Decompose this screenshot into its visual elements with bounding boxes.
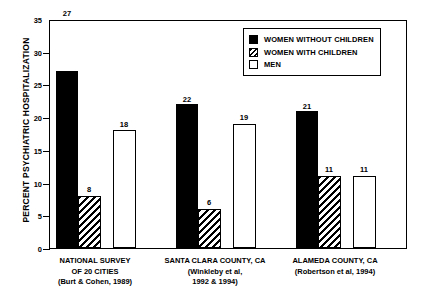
bar-g3-women-without-children (296, 111, 318, 248)
group-label-line2: (Winkleby et al, (165, 267, 266, 278)
bar-g2-men (233, 124, 256, 248)
y-tick-label-20: 20 (0, 114, 42, 123)
bar-value-g3-men: 11 (360, 165, 368, 174)
group-label-line3: (Burt & Cohen, 1989) (58, 277, 132, 288)
bar-g3-men (353, 176, 376, 248)
group-label-national-survey: NATIONAL SURVEY OF 20 CITIES (Burt & Coh… (58, 256, 132, 288)
bar-value-g3-women-without-children: 21 (303, 102, 311, 111)
legend-swatch-open-icon (249, 60, 258, 69)
bar-value-g3-women-with-children: 11 (325, 165, 333, 174)
bar-g2-women-without-children (176, 104, 198, 248)
y-tick-mark-0 (43, 249, 50, 250)
bar-g1-women-without-children (56, 71, 78, 248)
group-label-line1: NATIONAL SURVEY (58, 256, 132, 267)
legend-label-men: MEN (264, 60, 281, 69)
y-tick-label-0: 0 (0, 245, 42, 254)
bar-g1-men (113, 130, 136, 248)
bar-value-g2-men: 19 (240, 113, 248, 122)
group-label-line1: SANTA CLARA COUNTY, CA (165, 256, 266, 267)
group-label-santa-clara: SANTA CLARA COUNTY, CA (Winkleby et al, … (165, 256, 266, 288)
bar-value-g2-women-with-children: 6 (207, 198, 211, 207)
chart-legend: WOMEN WITHOUT CHILDREN WOMEN WITH CHILDR… (243, 28, 381, 76)
bar-value-g1-men: 18 (120, 120, 128, 129)
y-tick-label-35: 35 (0, 16, 42, 25)
group-label-alameda: ALAMEDA COUNTY, CA (Robertson et al, 199… (292, 256, 377, 277)
legend-item-women-with-children: WOMEN WITH CHILDREN (249, 46, 374, 58)
bar-chart: PERCENT PSYCHIATRIC HOSPITALIZATION 35 3… (0, 0, 429, 302)
legend-item-men: MEN (249, 59, 374, 71)
y-tick-label-25: 25 (0, 81, 42, 90)
group-label-line2: OF 20 CITIES (58, 267, 132, 278)
bar-value-g2-women-without-children: 22 (183, 95, 191, 104)
y-tick-label-10: 10 (0, 179, 42, 188)
group-label-line2: (Robertson et al, 1994) (292, 267, 377, 278)
bar-g1-women-with-children (78, 196, 101, 248)
legend-item-women-without-children: WOMEN WITHOUT CHILDREN (249, 34, 374, 46)
y-tick-label-15: 15 (0, 146, 42, 155)
y-tick-label-30: 30 (0, 48, 42, 57)
legend-label-women-without-children: WOMEN WITHOUT CHILDREN (264, 35, 374, 44)
legend-swatch-solid-icon (249, 35, 258, 44)
y-tick-label-5: 5 (0, 212, 42, 221)
bar-value-g1-women-without-children: 27 (63, 9, 71, 18)
group-label-line1: ALAMEDA COUNTY, CA (292, 256, 377, 267)
bar-g2-women-with-children (198, 209, 221, 248)
group-label-line3: 1992 & 1994) (165, 277, 266, 288)
legend-label-women-with-children: WOMEN WITH CHILDREN (264, 48, 358, 57)
bar-g3-women-with-children (318, 176, 341, 248)
bar-value-g1-women-with-children: 8 (87, 185, 91, 194)
legend-swatch-hatch-icon (249, 48, 258, 57)
